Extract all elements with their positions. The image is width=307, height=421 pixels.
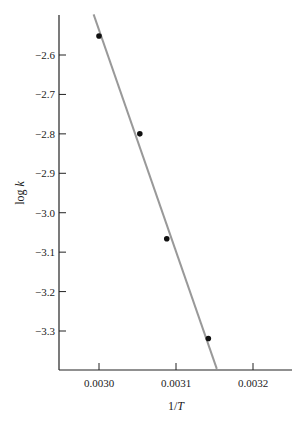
data-point (206, 336, 212, 342)
data-point (137, 131, 143, 137)
y-tick-label: −3.0 (35, 207, 55, 219)
chart: −2.6−2.7−2.8−2.9−3.0−3.1−3.2−3.3 0.00300… (0, 0, 307, 421)
y-tick-label: −2.9 (35, 167, 55, 179)
y-tick-label: −3.2 (35, 286, 55, 298)
y-tick-label: −3.3 (35, 325, 55, 337)
y-tick-label: −2.6 (35, 49, 55, 61)
x-axis: 0.00300.00310.0032 (59, 363, 292, 389)
data-point (96, 33, 102, 39)
y-axis-label: log k (13, 180, 27, 204)
x-tick-label: 0.0031 (161, 377, 191, 389)
y-axis: −2.6−2.7−2.8−2.9−3.0−3.1−3.2−3.3 (35, 15, 66, 370)
fit-line (94, 14, 217, 368)
x-tick-label: 0.0030 (84, 377, 115, 389)
y-tick-label: −2.7 (35, 88, 55, 100)
x-axis-label: 1/T (168, 399, 185, 413)
data-point (164, 236, 170, 242)
y-tick-label: −2.8 (35, 128, 55, 140)
y-tick-label: −3.1 (35, 246, 55, 258)
x-tick-label: 0.0032 (238, 377, 268, 389)
